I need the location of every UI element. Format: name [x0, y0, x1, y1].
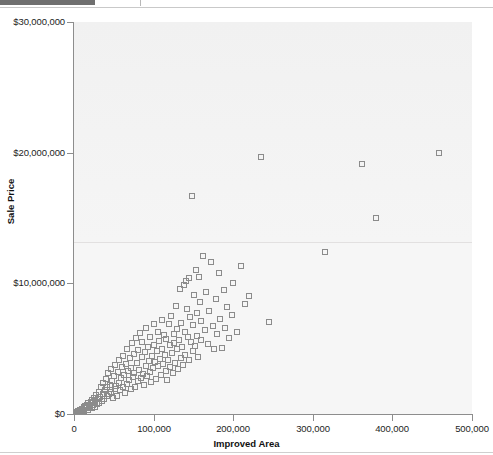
- scatter-point: [129, 340, 135, 346]
- scatter-point: [224, 304, 230, 310]
- scatter-point: [258, 154, 264, 160]
- scatter-point: [143, 325, 149, 331]
- scatter-point: [359, 161, 365, 167]
- scatter-plot-area[interactable]: [74, 22, 472, 414]
- scatter-point: [210, 323, 216, 329]
- scatter-point: [178, 320, 184, 326]
- scatter-point: [222, 325, 228, 331]
- scatter-point: [190, 322, 196, 328]
- scatter-point: [208, 259, 214, 265]
- scatter-point: [186, 275, 192, 281]
- scatter-point: [120, 353, 126, 359]
- scatter-point: [194, 310, 200, 316]
- scatter-point: [132, 384, 138, 390]
- scatter-point: [174, 326, 180, 332]
- scatter-point: [196, 274, 202, 280]
- y-axis-tick: [67, 22, 74, 23]
- y-axis-tick-label: $20,000,000: [13, 147, 65, 158]
- scatter-point: [133, 335, 139, 341]
- scatter-point: [203, 289, 209, 295]
- x-axis-tick: [154, 415, 155, 421]
- scatter-point: [165, 357, 171, 363]
- plot-background-upper: [74, 22, 472, 242]
- y-axis-tick-label: $30,000,000: [13, 16, 65, 27]
- scatter-point: [134, 360, 140, 366]
- scatter-point: [221, 287, 227, 293]
- x-axis-tick-label: 400,000: [352, 423, 432, 434]
- scatter-point: [147, 334, 153, 340]
- y-axis-tick-label: $10,000,000: [13, 277, 65, 288]
- x-axis-title: Improved Area: [0, 438, 493, 449]
- scatter-point: [146, 358, 152, 364]
- scatter-point: [159, 346, 165, 352]
- scatter-point: [193, 267, 199, 273]
- scatter-point: [173, 303, 179, 309]
- title-accent-bar: [0, 0, 95, 5]
- scatter-point: [230, 280, 236, 286]
- y-axis-tick-label: $0: [55, 408, 65, 419]
- scatter-point: [176, 337, 182, 343]
- scatter-point: [141, 382, 147, 388]
- scatter-point: [164, 377, 170, 383]
- y-axis-tick: [67, 153, 74, 154]
- scatter-point: [214, 331, 220, 337]
- scatter-point: [206, 308, 212, 314]
- scatter-point: [198, 318, 204, 324]
- scatter-point: [226, 335, 232, 341]
- scatter-point: [322, 249, 328, 255]
- top-divider-rule: [0, 7, 493, 8]
- scatter-point: [191, 292, 197, 298]
- x-axis-tick-label: 200,000: [193, 423, 273, 434]
- scatter-point: [179, 344, 185, 350]
- scatter-point: [163, 336, 169, 342]
- window-top-strip: [0, 0, 493, 9]
- scatter-point: [187, 314, 193, 320]
- scatter-point: [168, 313, 174, 319]
- scatter-point: [217, 316, 223, 322]
- x-axis-tick-label: 100,000: [114, 423, 194, 434]
- scatter-point: [200, 253, 206, 259]
- scatter-point: [373, 215, 379, 221]
- scatter-point: [197, 299, 203, 305]
- x-axis-tick-label: 500,000: [432, 423, 493, 434]
- scatter-point: [202, 327, 208, 333]
- scatter-point: [137, 330, 143, 336]
- bottom-divider-rule: [0, 452, 493, 453]
- scatter-point: [216, 270, 222, 276]
- plot-faint-band: [74, 242, 472, 243]
- scatter-point: [219, 345, 225, 351]
- scatter-point: [151, 321, 157, 327]
- scatter-point: [205, 341, 211, 347]
- scatter-point: [234, 329, 240, 335]
- scatter-point: [139, 354, 145, 360]
- scatter-point: [186, 357, 192, 363]
- scatter-point: [211, 346, 217, 352]
- scatter-point: [114, 393, 120, 399]
- top-ruler-tick: [140, 0, 141, 6]
- x-axis-tick: [233, 415, 234, 421]
- scatter-point: [180, 362, 186, 368]
- scatter-point: [242, 301, 248, 307]
- scatter-point: [213, 296, 219, 302]
- scatter-point: [166, 321, 172, 327]
- scatter-point: [135, 347, 141, 353]
- scatter-point: [198, 337, 204, 343]
- scatter-point: [238, 263, 244, 269]
- scatter-point: [124, 346, 130, 352]
- scatter-point: [159, 317, 165, 323]
- scatter-point: [229, 312, 235, 318]
- scatter-point: [184, 306, 190, 312]
- scatter-point: [436, 150, 442, 156]
- x-axis-tick-label: 300,000: [273, 423, 353, 434]
- scatter-point: [195, 354, 201, 360]
- scatter-point: [155, 329, 161, 335]
- y-axis-line: [73, 22, 74, 415]
- scatter-point: [192, 343, 198, 349]
- x-axis-tick: [392, 415, 393, 421]
- x-axis-tick: [74, 415, 75, 421]
- scatter-point: [246, 293, 252, 299]
- y-axis-title: Sale Price: [5, 170, 16, 234]
- x-axis-tick: [313, 415, 314, 421]
- scatter-point: [266, 319, 272, 325]
- scatter-point: [189, 193, 195, 199]
